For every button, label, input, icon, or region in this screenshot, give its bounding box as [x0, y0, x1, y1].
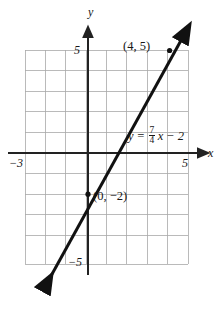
equation-label: y = 7 4 x − 2	[128, 126, 184, 146]
x-axis-label: x	[208, 147, 213, 159]
equation-fraction-seven-fourths: 7 4	[149, 126, 156, 146]
equation-minus-sign: −	[165, 130, 175, 143]
equation-constant: 2	[178, 130, 184, 143]
coordinate-graph-figure: y x 5 −5 −3 5 (4, 5) (0, −2) y = 7 4 x −…	[0, 0, 222, 309]
y-tick-label-5: 5	[74, 44, 80, 56]
plot-canvas	[0, 0, 222, 309]
function-line	[46, 35, 184, 285]
point-marker-4-5	[167, 48, 172, 53]
equation-variable-x: x	[158, 130, 164, 143]
x-tick-label-5: 5	[182, 157, 188, 169]
fraction-denominator: 4	[149, 135, 156, 146]
grid-lines	[25, 50, 188, 264]
equation-equals-sign: =	[136, 130, 146, 143]
point-label-4-5: (4, 5)	[123, 40, 150, 53]
y-tick-label-minus-5: −5	[68, 256, 82, 268]
fraction-numerator: 7	[149, 126, 156, 136]
x-tick-label-minus-3: −3	[9, 157, 23, 169]
y-axis-label: y	[88, 6, 93, 18]
point-marker-intercept	[85, 192, 90, 197]
point-label-0-minus-2: (0, −2)	[93, 190, 127, 203]
equation-lhs: y	[128, 130, 134, 143]
